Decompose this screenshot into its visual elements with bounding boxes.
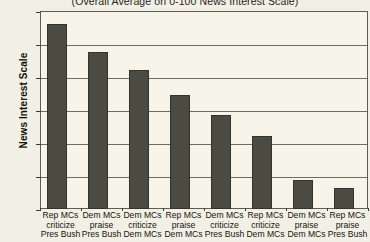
x-axis-labels: Rep MCscriticizePres BushDem MCspraisePr… <box>40 211 368 242</box>
bar-slot <box>204 11 245 209</box>
x-axis-tick-mark <box>368 208 369 211</box>
bar-slot <box>327 11 368 209</box>
x-axis-label-line: Dem MCs <box>163 230 204 240</box>
x-axis-label: Rep MCscriticizePres Bush <box>40 211 81 240</box>
x-axis-label-line: Pres Bush <box>40 230 81 240</box>
x-axis-label: Rep MCscriticizeDem MCs <box>245 211 286 240</box>
x-axis-label-line: Pres Bush <box>81 230 122 240</box>
x-axis-label: Dem MCspraiseDem MCs <box>286 211 327 240</box>
bar[interactable] <box>88 52 107 209</box>
x-axis-label: Rep MCspraiseDem MCs <box>163 211 204 240</box>
x-axis-label-line: Dem MCs <box>286 230 327 240</box>
x-axis-label-line: Pres Bush <box>327 230 368 240</box>
bars-layer <box>40 11 368 209</box>
bar[interactable] <box>170 95 189 209</box>
bar-slot <box>245 11 286 209</box>
bar[interactable] <box>293 180 312 209</box>
bar-slot <box>81 11 122 209</box>
bar-slot <box>286 11 327 209</box>
bar-slot <box>40 11 81 209</box>
news-interest-bar-chart: (Overall Average on 0-100 News Interest … <box>0 0 370 242</box>
bar[interactable] <box>47 24 66 209</box>
bar-slot <box>163 11 204 209</box>
x-axis-label: Dem MCscriticizePres Bush <box>204 211 245 240</box>
x-axis-label: Rep MCspraisePres Bush <box>327 211 368 240</box>
bar-slot <box>122 11 163 209</box>
y-axis-title: News Interest Scale <box>18 26 29 176</box>
chart-subtitle: (Overall Average on 0-100 News Interest … <box>0 0 370 7</box>
bar[interactable] <box>129 70 148 209</box>
bar[interactable] <box>334 188 353 209</box>
x-axis-label-line: Dem MCs <box>122 230 163 240</box>
bar[interactable] <box>211 115 230 209</box>
x-axis-label: Dem MCspraisePres Bush <box>81 211 122 240</box>
bar[interactable] <box>252 136 271 209</box>
x-axis-label: Dem MCscriticizeDem MCs <box>122 211 163 240</box>
x-axis-label-line: Dem MCs <box>245 230 286 240</box>
x-axis-label-line: Pres Bush <box>204 230 245 240</box>
